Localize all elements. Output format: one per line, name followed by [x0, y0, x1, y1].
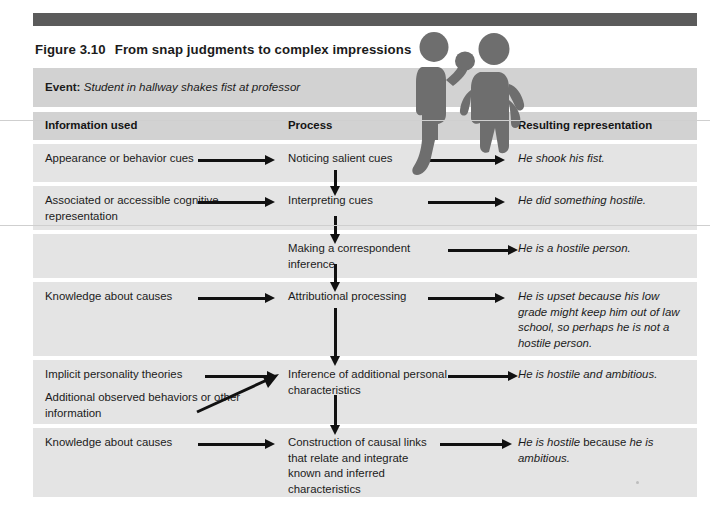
row-5-process: Inference of additional personal charact…	[288, 367, 448, 398]
row-5-arrow-process-to-representation	[448, 371, 518, 382]
row-2-arrow-process-to-representation	[428, 197, 505, 208]
scan-artifact-speck	[636, 481, 639, 484]
row-4-arrow-process-to-representation	[428, 293, 505, 304]
row-2-representation: He did something hostile.	[518, 193, 694, 209]
top-rule-bar	[33, 13, 697, 26]
column-header-information-used: Information used	[45, 119, 137, 131]
row-6-representation-part-1: He is hostile	[518, 436, 580, 448]
row-4-arrow-info-to-process	[198, 293, 275, 304]
event-line: Event: Student in hallway shakes fist at…	[45, 80, 300, 93]
row-3-arrow-process-to-representation	[448, 245, 518, 256]
row-5-diagonal-arrow	[195, 370, 291, 416]
figure-page: Figure 3.10From snap judgments to comple…	[0, 0, 710, 529]
process-connector-2-to-3	[330, 216, 341, 244]
row-6-arrow-process-to-representation	[440, 439, 512, 450]
row-6-representation: He is hostile because he is ambitious.	[518, 435, 694, 466]
row-3-process: Making a correspondent inference	[288, 241, 438, 272]
professor-hand-on-hip-icon	[460, 33, 524, 153]
process-connector-4-to-5	[330, 308, 341, 366]
row-6-representation-connector: because	[580, 436, 629, 448]
row-6-arrow-info-to-process	[198, 439, 275, 450]
row-1-representation: He shook his fist.	[518, 151, 694, 167]
event-description: Student in hallway shakes fist at profes…	[84, 80, 301, 93]
figure-number: Figure 3.10	[35, 42, 106, 57]
process-connector-3-to-4	[330, 264, 341, 292]
event-label: Event:	[45, 80, 80, 93]
row-5-representation: He is hostile and ambitious.	[518, 367, 694, 383]
row-2-arrow-info-to-process	[198, 197, 275, 208]
figure-title: Figure 3.10From snap judgments to comple…	[35, 42, 411, 57]
row-6-process: Construction of causal links that relate…	[288, 435, 438, 497]
column-header-process: Process	[288, 119, 332, 131]
figure-title-text: From snap judgments to complex impressio…	[115, 42, 412, 57]
row-4-representation: He is upset because his low grade might …	[518, 289, 690, 351]
process-connector-1-to-2	[330, 170, 341, 196]
row-1-arrow-info-to-process	[198, 155, 275, 166]
process-connector-5-to-6	[330, 395, 341, 435]
two-people-confrontation-illustration	[405, 28, 540, 188]
row-3-representation: He is a hostile person.	[518, 241, 694, 257]
